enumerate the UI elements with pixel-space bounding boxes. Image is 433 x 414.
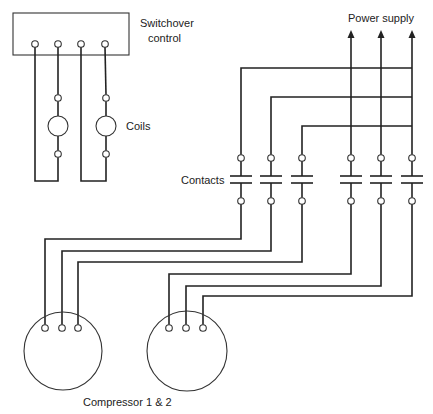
compressor-terminal bbox=[42, 325, 49, 332]
contact-6 bbox=[401, 155, 423, 205]
coil-terminal bbox=[55, 95, 62, 102]
compressors-label: Compressor 1 & 2 bbox=[83, 396, 172, 408]
arrow-up-icon bbox=[409, 30, 416, 38]
compressor-2 bbox=[147, 311, 227, 391]
switchover-terminal bbox=[102, 41, 109, 48]
contact-terminal bbox=[268, 198, 275, 205]
contact-terminal bbox=[378, 198, 385, 205]
switchover-terminal bbox=[55, 41, 62, 48]
c2-wire-1 bbox=[169, 204, 351, 324]
compressor-1 bbox=[24, 312, 102, 390]
power-branch-1 bbox=[241, 68, 412, 155]
contact-terminal bbox=[348, 155, 355, 162]
coil-terminal bbox=[55, 151, 62, 158]
compressor-2-body bbox=[147, 311, 227, 391]
arrow-up-icon bbox=[378, 30, 385, 38]
contact-terminal bbox=[348, 198, 355, 205]
c1-wire-3 bbox=[78, 204, 302, 324]
contact-3 bbox=[291, 155, 313, 205]
coils-label: Coils bbox=[126, 120, 151, 132]
coil-terminal bbox=[103, 151, 110, 158]
contact-terminal bbox=[299, 198, 306, 205]
contact-terminal bbox=[378, 155, 385, 162]
contact-terminal bbox=[409, 155, 416, 162]
contact-1 bbox=[230, 155, 252, 205]
compressor-wiring bbox=[45, 204, 412, 324]
switchover-terminal bbox=[32, 41, 39, 48]
coil-2-wire bbox=[105, 47, 106, 94]
switchover-control: Switchover control bbox=[13, 13, 194, 55]
compressor-terminal bbox=[200, 325, 207, 332]
c1-wire-2 bbox=[62, 204, 271, 324]
power-supply: Power supply bbox=[241, 12, 416, 155]
switchover-label-line1: Switchover bbox=[140, 17, 194, 29]
compressor-terminal bbox=[59, 325, 66, 332]
compressor-terminal bbox=[183, 325, 190, 332]
contact-2 bbox=[260, 155, 282, 205]
contact-terminal bbox=[299, 155, 306, 162]
coil-2 bbox=[96, 116, 116, 136]
contact-terminal bbox=[268, 155, 275, 162]
compressor-terminal bbox=[166, 325, 173, 332]
arrow-up-icon bbox=[348, 30, 355, 38]
switchover-terminal bbox=[78, 41, 85, 48]
coil-2-wire bbox=[81, 47, 106, 181]
contact-terminal bbox=[238, 155, 245, 162]
contacts-label: Contacts bbox=[181, 174, 225, 186]
compressor-terminal bbox=[75, 325, 82, 332]
coil-1 bbox=[48, 116, 68, 136]
coil-1-wire bbox=[35, 47, 58, 181]
power-branch-3 bbox=[302, 126, 412, 155]
contact-terminal bbox=[409, 198, 416, 205]
contact-5 bbox=[370, 155, 392, 205]
switchover-label-line2: control bbox=[148, 32, 181, 44]
power-supply-label: Power supply bbox=[348, 12, 415, 24]
contacts: Contacts bbox=[181, 174, 225, 186]
contact-4 bbox=[340, 155, 362, 205]
contact-terminal bbox=[238, 198, 245, 205]
coil-terminal bbox=[103, 95, 110, 102]
switchover-control-box bbox=[13, 13, 129, 55]
compressor-1-body bbox=[24, 312, 102, 390]
coils: Coils bbox=[35, 47, 151, 181]
contact-set bbox=[230, 155, 423, 205]
c1-wire-1 bbox=[45, 204, 241, 324]
wiring-diagram: Switchover control Coils Power supply bbox=[0, 0, 433, 414]
